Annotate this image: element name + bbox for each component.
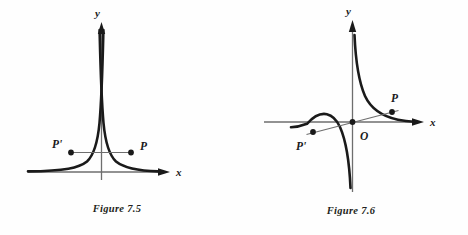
point-label-p: P [140, 140, 148, 152]
x-axis-label: x [175, 166, 182, 178]
y-axis-group: y [344, 5, 356, 192]
figure-7-5-canvas: x y P P' [0, 0, 234, 200]
point-marker-p [128, 150, 134, 156]
figure-7-5-caption: Figure 7.5 [0, 203, 234, 214]
figure-7-6-caption: Figure 7.6 [234, 205, 468, 216]
point-label-p-prime: P' [296, 140, 306, 152]
origin-label: O [360, 130, 368, 142]
point-label-p-prime: P' [52, 138, 62, 150]
figure-page: x y P P' Figure 7.5 [0, 0, 468, 235]
y-axis-label: y [93, 7, 100, 19]
y-axis-arrowhead-icon [349, 20, 356, 32]
point-marker-p-prime [68, 150, 74, 156]
x-axis-label: x [429, 116, 436, 128]
figure-7-5: x y P P' Figure 7.5 [0, 0, 234, 235]
point-marker-origin [350, 119, 356, 125]
y-axis-label: y [344, 5, 351, 17]
curve-left-branch [28, 30, 103, 171]
x-axis-arrowhead-icon [158, 168, 170, 176]
point-marker-p [389, 109, 395, 115]
curve-branch-quadrant-1 [355, 35, 415, 122]
point-label-p: P [391, 92, 399, 104]
figure-7-6: x y O P P' Figure 7. [234, 0, 468, 235]
curve-right-branch [100, 30, 158, 171]
point-marker-p-prime [310, 129, 316, 135]
figure-7-6-canvas: x y O P P' [234, 0, 468, 202]
